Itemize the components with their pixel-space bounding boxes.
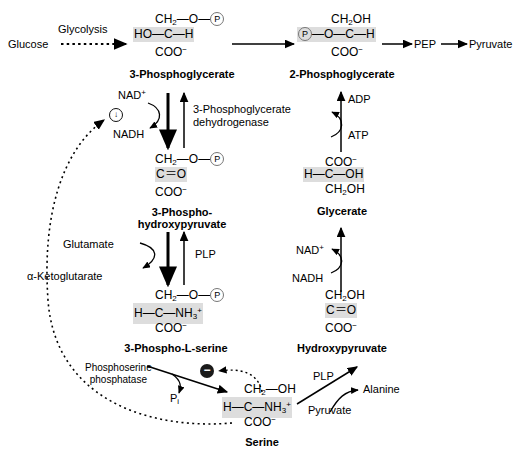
serine-row1: CH2—OH (222, 382, 296, 397)
label-glycolysis: Glycolysis (58, 23, 108, 36)
structure-glycerate: COO− H—C—OH CH2OH (303, 152, 365, 197)
php-label-line2: hydroxypyruvate (138, 218, 227, 230)
cofactor-adp: ADP (348, 93, 371, 106)
node-label-hydroxypyruvate: Hydroxypyruvate (297, 342, 387, 354)
product-inorganic-phosphate: Pi (170, 392, 179, 406)
structure-2-phosphoglycerate: CH2OH P—O—C—H COO− (297, 12, 376, 57)
php-label-line1: 3-Phospho- (152, 206, 213, 218)
psl-row1: CH2—O—P (133, 288, 224, 303)
pathway-diagram: Glucose Glycolysis CH2—O—P HO—C—H COO− 3… (0, 0, 517, 471)
structure-3-phospho-l-serine: CH2—O—P H—C—NH3+ COO− (133, 288, 224, 333)
product-alanine: Alanine (363, 383, 400, 396)
cofactor-alpha-ketoglutarate: α-Ketoglutarate (27, 270, 102, 283)
pgdh-line2: dehydrogenase (193, 116, 269, 128)
pg2-row1: CH2OH (297, 12, 376, 27)
cofactor-nadh-left: NADH (113, 128, 144, 141)
pg3-row1: CH2—O—P (133, 12, 224, 27)
serine-row3: COO− (222, 412, 296, 427)
cofactor-nad-plus-right: NAD+ (296, 243, 324, 257)
structure-3-phosphohydroxypyruvate: CH2—O—P C＝O COO− (133, 152, 224, 197)
enzyme-plp-right: PLP (313, 370, 334, 383)
psl-row2: H—C—NH3+ (133, 303, 224, 318)
pg2-row3: COO− (297, 42, 376, 57)
structure-3-phosphoglycerate: CH2—O—P HO—C—H COO− (133, 12, 224, 57)
glycerate-row3: CH2OH (303, 182, 365, 197)
psp-line2: phosphatase (90, 374, 147, 385)
node-label-3-phosphoglycerate: 3-Phosphoglycerate (129, 68, 234, 80)
enzyme-phosphoserine-phosphatase: Phosphoserine phosphatase (85, 362, 152, 385)
node-pyruvate-top[interactable]: Pyruvate (469, 38, 512, 51)
structure-serine: CH2—OH H—C—NH3+ COO− (222, 382, 296, 427)
hp-row1: CH2OH (303, 288, 365, 303)
php-row2: C＝O (133, 167, 224, 182)
node-label-3-phosphohydroxypyruvate: 3-Phospho- hydroxypyruvate (138, 206, 227, 230)
serine-row2: H—C—NH3+ (222, 397, 296, 412)
cofactor-atp: ATP (348, 129, 369, 142)
cofactor-nadh-right: NADH (292, 272, 323, 285)
cofactor-glutamate: Glutamate (63, 238, 114, 251)
pg3-row2: HO—C—H (133, 27, 224, 42)
inhibition-minus-icon: − (200, 364, 214, 378)
cofactor-pyruvate-bottom: Pyruvate (308, 404, 351, 417)
decrease-arrow-icon: ↓ (109, 108, 123, 122)
node-pep[interactable]: PEP (414, 38, 436, 51)
pg3-row3: COO− (133, 42, 224, 57)
phosphate-circle-icon: P (298, 27, 312, 41)
glycerate-row2: H—C—OH (303, 167, 365, 182)
cofactor-nad-plus-left: NAD+ (118, 88, 146, 102)
psl-row3: COO− (133, 318, 224, 333)
node-label-serine: Serine (245, 436, 279, 448)
phosphate-circle-icon: P (210, 152, 224, 166)
node-label-2-phosphoglycerate: 2-Phosphoglycerate (289, 68, 394, 80)
hp-row3: COO− (303, 318, 365, 333)
phosphate-circle-icon: P (210, 288, 224, 302)
enzyme-plp-left: PLP (195, 248, 216, 261)
enzyme-3-phosphoglycerate-dehydrogenase: 3-Phosphoglycerate dehydrogenase (193, 103, 291, 128)
php-row1: CH2—O—P (133, 152, 224, 167)
pgdh-line1: 3-Phosphoglycerate (193, 103, 291, 115)
phosphate-circle-icon: P (210, 12, 224, 26)
php-row3: COO− (133, 182, 224, 197)
pg2-row2: P—O—C—H (297, 27, 376, 42)
hp-row2: C＝O (303, 303, 365, 318)
psp-line1: Phosphoserine (85, 362, 152, 373)
node-label-glycerate: Glycerate (317, 205, 367, 217)
node-glucose[interactable]: Glucose (8, 38, 48, 51)
node-label-3-phospho-l-serine: 3-Phospho-L-serine (124, 342, 227, 354)
structure-hydroxypyruvate: CH2OH C＝O COO− (303, 288, 365, 333)
glycerate-row1: COO− (303, 152, 365, 167)
